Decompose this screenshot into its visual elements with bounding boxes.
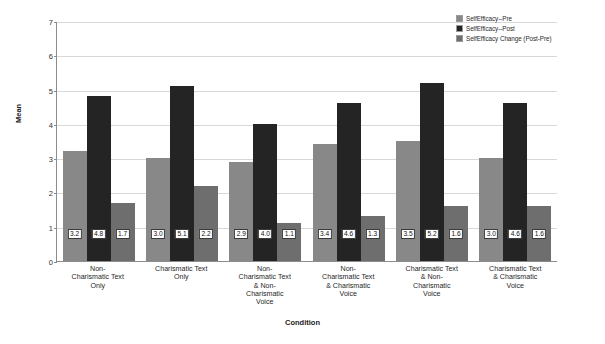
bar-group: 3.05.12.2 — [140, 22, 223, 261]
x-axis-tick-label: Charismatic Text Only — [140, 265, 224, 307]
bar[interactable]: 4.0 — [253, 124, 277, 261]
y-axis-title: Mean — [14, 104, 23, 123]
bar-value-label: 1.3 — [366, 229, 380, 239]
bar-value-label: 3.0 — [151, 229, 165, 239]
y-axis-tick-label: 4 — [49, 120, 53, 129]
bar-value-label: 4.6 — [342, 229, 356, 239]
bar-value-label: 3.4 — [318, 229, 332, 239]
legend-item-label: SelfEfficacy--Post — [466, 25, 515, 32]
bar-value-label: 3.2 — [68, 229, 82, 239]
legend-item[interactable]: SelfEfficacy--Post — [456, 24, 604, 33]
bar-groups: 3.24.81.73.05.12.22.94.01.13.44.61.33.55… — [57, 22, 557, 261]
chart-figure: SelfEfficacy--PreSelfEfficacy--PostSelfE… — [0, 0, 605, 344]
bar[interactable]: 3.5 — [396, 141, 420, 261]
bar[interactable]: 4.6 — [503, 103, 527, 261]
bar-group: 3.24.81.7 — [57, 22, 140, 261]
bar[interactable]: 3.4 — [313, 144, 337, 261]
x-axis-tick-labels: Non- Charismatic Text OnlyCharismatic Te… — [56, 265, 557, 307]
y-axis-tick-label: 7 — [49, 18, 53, 27]
bar[interactable]: 3.2 — [63, 151, 87, 261]
y-axis-tick-label: 1 — [49, 223, 53, 232]
bar-value-label: 1.6 — [532, 229, 546, 239]
bar[interactable]: 2.2 — [194, 186, 218, 261]
bar-value-label: 4.8 — [92, 229, 106, 239]
x-axis-tick-label: Non- Charismatic Text & Charismatic Voic… — [307, 265, 391, 307]
bar[interactable]: 1.7 — [111, 203, 135, 261]
x-axis-tick-label: Non- Charismatic Text Only — [56, 265, 140, 307]
bar-value-label: 2.2 — [199, 229, 213, 239]
legend-item-label: SelfEfficacy Change (Post-Pre) — [466, 35, 552, 42]
bar[interactable]: 1.6 — [444, 206, 468, 261]
bar-group: 2.94.01.1 — [224, 22, 307, 261]
bar[interactable]: 2.9 — [229, 162, 253, 261]
legend-swatch-icon — [456, 15, 463, 22]
bar[interactable]: 5.2 — [420, 83, 444, 261]
bar[interactable]: 4.8 — [87, 96, 111, 261]
bar-value-label: 3.5 — [401, 229, 415, 239]
y-axis-tick-label: 6 — [49, 52, 53, 61]
y-axis-tick-label: 0 — [49, 258, 53, 267]
bar[interactable]: 1.1 — [277, 223, 301, 261]
plot-area: 01234567 3.24.81.73.05.12.22.94.01.13.44… — [56, 22, 557, 262]
legend-swatch-icon — [456, 35, 463, 42]
bar-group: 3.44.61.3 — [307, 22, 390, 261]
bar[interactable]: 4.6 — [337, 103, 361, 261]
bar[interactable]: 3.0 — [479, 158, 503, 261]
x-axis-tick-label: Charismatic Text & Charismatic Voice — [474, 265, 558, 307]
bar-value-label: 1.7 — [116, 229, 130, 239]
x-axis-tick-label: Charismatic Text & Non- Charismatic Voic… — [390, 265, 474, 307]
bar-value-label: 4.0 — [258, 229, 272, 239]
bar-group: 3.04.61.6 — [474, 22, 557, 261]
bar[interactable]: 1.3 — [361, 216, 385, 261]
bar[interactable]: 5.1 — [170, 86, 194, 261]
y-axis-tick-label: 3 — [49, 155, 53, 164]
bar-value-label: 3.0 — [484, 229, 498, 239]
bar-value-label: 4.6 — [508, 229, 522, 239]
y-axis-tick-label: 2 — [49, 189, 53, 198]
bar-value-label: 5.2 — [425, 229, 439, 239]
chart-legend: SelfEfficacy--PreSelfEfficacy--PostSelfE… — [456, 14, 604, 43]
bar-value-label: 5.1 — [175, 229, 189, 239]
x-axis-tick-label: Non- Charismatic Text & Non- Charismatic… — [223, 265, 307, 307]
bar-value-label: 1.1 — [282, 229, 296, 239]
y-axis-tick-label: 5 — [49, 86, 53, 95]
bar-group: 3.55.21.6 — [390, 22, 473, 261]
y-axis-tick-mark — [54, 262, 57, 263]
x-axis-title: Condition — [0, 318, 605, 327]
bar[interactable]: 1.6 — [527, 206, 551, 261]
bar-value-label: 2.9 — [234, 229, 248, 239]
legend-item[interactable]: SelfEfficacy--Pre — [456, 14, 604, 23]
legend-item[interactable]: SelfEfficacy Change (Post-Pre) — [456, 34, 604, 43]
legend-swatch-icon — [456, 25, 463, 32]
bar[interactable]: 3.0 — [146, 158, 170, 261]
legend-item-label: SelfEfficacy--Pre — [466, 15, 512, 22]
bar-value-label: 1.6 — [449, 229, 463, 239]
